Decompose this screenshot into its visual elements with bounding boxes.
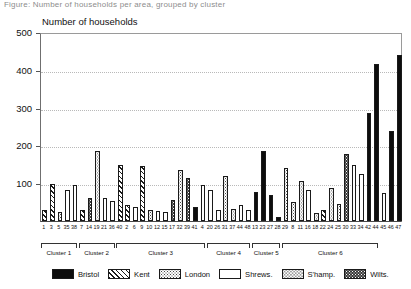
x-tick-label: 18 (312, 224, 318, 230)
legend-swatch-icon (52, 269, 74, 279)
x-tick-label: 47 (395, 224, 401, 230)
bar (125, 205, 130, 221)
legend-item-kent[interactable]: Kent (108, 269, 150, 279)
x-tick-label: 22 (320, 224, 326, 230)
legend-label: Shrews. (245, 270, 272, 279)
legend-item-shamp[interactable]: S'hamp. (282, 269, 336, 279)
legend-label: S'hamp. (308, 270, 336, 279)
bar (118, 165, 123, 221)
bar (42, 210, 47, 221)
x-tick-label: 5 (57, 224, 60, 230)
bar (306, 190, 311, 221)
bar (208, 190, 213, 221)
legend-label: Kent (134, 270, 150, 279)
y-tick-label-300: 300 (2, 103, 32, 114)
x-tick-label: 23 (259, 224, 265, 230)
bar (352, 165, 357, 221)
bar-series (41, 34, 401, 221)
bar (140, 166, 145, 221)
bar (284, 168, 289, 221)
x-tick-label: 34 (358, 224, 364, 230)
x-tick-label: 10 (146, 224, 152, 230)
legend-swatch-icon (108, 269, 130, 279)
bar (291, 202, 296, 221)
x-tick-label: 4 (201, 224, 204, 230)
x-tick-label: 16 (305, 224, 311, 230)
x-tick-label: 19 (94, 224, 100, 230)
cluster-bracket (41, 243, 77, 248)
bar (201, 185, 206, 221)
bar (65, 190, 70, 221)
x-tick-label: 37 (229, 224, 235, 230)
bar (156, 211, 161, 221)
bar (133, 207, 138, 221)
x-tick-label: 32 (177, 224, 183, 230)
bar (148, 210, 153, 221)
x-tick-label: 27 (267, 224, 273, 230)
x-tick-label: 8 (291, 224, 294, 230)
x-tick-label: 42 (365, 224, 371, 230)
legend-item-wilts[interactable]: Wilts. (344, 269, 389, 279)
legend-swatch-icon (282, 269, 304, 279)
x-tick-label: 44 (373, 224, 379, 230)
x-tick-label: 48 (244, 224, 250, 230)
legend-label: London (185, 270, 210, 279)
x-tick-label: 33 (350, 224, 356, 230)
bar (171, 200, 176, 221)
x-tick-label: 17 (169, 224, 175, 230)
figure-caption: Figure: Number of households per area, g… (4, 0, 404, 14)
y-axis-title: Number of households (42, 16, 138, 27)
bar (186, 178, 191, 221)
y-tick-label-200: 200 (2, 140, 32, 151)
x-tick-label: 12 (154, 224, 160, 230)
y-tick-mark-200 (36, 146, 40, 147)
bar (389, 131, 394, 221)
legend-label: Bristol (78, 270, 99, 279)
x-tick-label: 26 (214, 224, 220, 230)
bar (95, 151, 100, 221)
x-tick-label: 6 (133, 224, 136, 230)
bar (299, 181, 304, 221)
bar (80, 210, 85, 221)
y-tick-label-500: 500 (2, 27, 32, 38)
bar (73, 185, 78, 221)
cluster-label: Cluster 6 (318, 249, 343, 256)
bar (254, 192, 259, 221)
bar (382, 193, 387, 221)
bar (367, 113, 372, 221)
x-tick-label: 13 (252, 224, 258, 230)
bar (193, 207, 198, 221)
x-tick-label: 21 (101, 224, 107, 230)
x-tick-label: 35 (63, 224, 69, 230)
bar (359, 174, 364, 221)
x-tick-label: 36 (109, 224, 115, 230)
bar (246, 210, 251, 221)
bar (374, 64, 379, 221)
bar (397, 55, 402, 221)
legend-item-bristol[interactable]: Bristol (52, 269, 99, 279)
cluster-label: Cluster 5 (254, 249, 279, 256)
x-tick-label: 46 (388, 224, 394, 230)
cluster-label: Cluster 2 (84, 249, 109, 256)
cluster-label: Cluster 4 (216, 249, 241, 256)
x-tick-label: 29 (282, 224, 288, 230)
legend-item-shrews[interactable]: Shrews. (219, 269, 272, 279)
x-tick-label: 3 (50, 224, 53, 230)
cluster-label: Cluster 3 (148, 249, 173, 256)
bar (58, 212, 63, 221)
x-tick-label: 11 (297, 224, 303, 230)
x-tick-label: 24 (327, 224, 333, 230)
bar (321, 210, 326, 221)
cluster-bracket (252, 243, 280, 248)
y-tick-label-400: 400 (2, 65, 32, 76)
cluster-label: Cluster 1 (46, 249, 71, 256)
legend-label: Wilts. (370, 270, 389, 279)
bar (231, 209, 236, 221)
bar (269, 195, 274, 221)
legend-item-london[interactable]: London (159, 269, 210, 279)
bar (163, 212, 168, 221)
legend-swatch-icon (219, 269, 241, 279)
figure-root: Figure: Number of households per area, g… (0, 0, 411, 289)
cluster-brackets: Cluster 1Cluster 2Cluster 3Cluster 4Clus… (40, 243, 402, 263)
bar (337, 204, 342, 221)
